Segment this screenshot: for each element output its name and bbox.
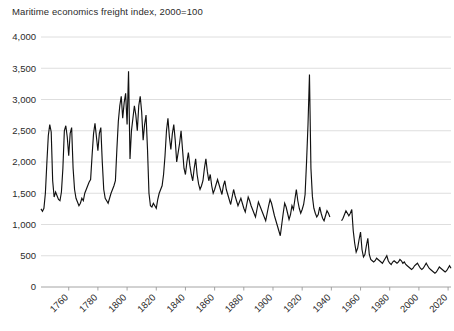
data-series-group (41, 71, 451, 273)
y-axis-tick-label: 4,000 (12, 31, 36, 42)
y-axis-labels-group: 05001,0001,5002,0002,5003,0003,5004,000 (12, 31, 36, 292)
y-axis-tick-label: 2,500 (12, 125, 36, 136)
x-axis-tick-label: 1860 (193, 292, 216, 315)
y-axis-tick-label: 0 (31, 281, 36, 292)
x-axis-tick-label: 2000 (398, 292, 421, 315)
y-axis-tick-label: 3,500 (12, 63, 36, 74)
series-line (41, 71, 330, 235)
x-axis-tick-label: 2020 (427, 292, 450, 315)
chart-plot-area: 05001,0001,5002,0002,5003,0003,5004,000 … (0, 0, 454, 331)
x-axis-tick-label: 1780 (77, 292, 100, 315)
y-axis-tick-label: 500 (20, 250, 36, 261)
x-axis-tick-label: 1880 (222, 292, 245, 315)
x-axis-tick-label: 1820 (135, 292, 158, 315)
x-axis-ticks-group (69, 287, 448, 291)
y-axis-tick-label: 3,000 (12, 94, 36, 105)
chart-container: Maritime economics freight index, 2000=1… (0, 0, 454, 331)
x-axis-tick-label: 1840 (164, 292, 187, 315)
x-axis-tick-label: 1960 (339, 292, 362, 315)
series-line (342, 210, 451, 274)
x-axis-labels-group: 1760178018001820184018601880190019201940… (47, 292, 449, 315)
y-axis-tick-label: 2,000 (12, 156, 36, 167)
y-axis-tick-label: 1,500 (12, 188, 36, 199)
x-axis-tick-label: 1760 (47, 292, 70, 315)
y-axis-tick-label: 1,000 (12, 219, 36, 230)
x-axis-tick-label: 1900 (252, 292, 275, 315)
x-axis-tick-label: 1940 (310, 292, 333, 315)
x-axis-tick-label: 1920 (281, 292, 304, 315)
x-axis-tick-label: 1980 (368, 292, 391, 315)
x-axis-tick-label: 1800 (106, 292, 129, 315)
